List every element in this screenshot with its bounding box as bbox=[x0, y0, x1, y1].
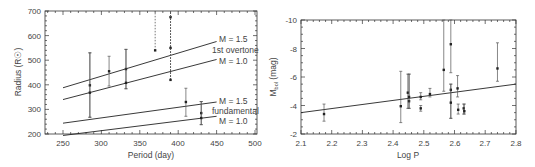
right-ytick-minus2: -2 bbox=[290, 130, 298, 139]
left-ytick-400: 400 bbox=[28, 81, 42, 90]
left-xtick-350: 350 bbox=[133, 139, 147, 148]
left-xtick-450: 450 bbox=[210, 139, 224, 148]
right-ytick-minus8: -8 bbox=[290, 45, 298, 54]
right-xtick-2.2: 2.2 bbox=[326, 139, 338, 148]
right-ylabel-sub: bol bbox=[273, 82, 279, 89]
label-m10-overtone: M = 1.0 bbox=[219, 56, 248, 66]
right-ylabel-unit: (mag) bbox=[268, 57, 278, 82]
left-ytick-700: 700 bbox=[28, 7, 42, 16]
right-data-points bbox=[323, 20, 499, 123]
data-point bbox=[407, 91, 409, 93]
right-ylabel-main: M bbox=[268, 89, 278, 96]
right-plot-frame bbox=[301, 20, 516, 134]
data-point bbox=[450, 43, 452, 45]
data-point bbox=[450, 101, 452, 103]
data-point bbox=[429, 93, 431, 95]
data-point bbox=[154, 49, 156, 51]
data-point bbox=[456, 87, 458, 89]
data-point bbox=[496, 67, 498, 69]
right-xtick-2.3: 2.3 bbox=[356, 139, 368, 148]
right-y-axis-label: Mbol (mag) bbox=[268, 57, 279, 96]
data-point bbox=[408, 96, 410, 98]
data-point bbox=[108, 70, 110, 72]
label-m15-fundamental: M = 1.5 bbox=[219, 96, 248, 106]
left-ytick-600: 600 bbox=[28, 32, 42, 41]
data-point bbox=[200, 117, 202, 119]
left-ytick-300: 300 bbox=[28, 105, 42, 114]
left-x-axis-label: Period (day) bbox=[128, 150, 174, 160]
left-xtick-500: 500 bbox=[248, 139, 262, 148]
right-ticks bbox=[301, 20, 516, 134]
right-xtick-2.5: 2.5 bbox=[418, 139, 430, 148]
right-x-axis-label: Log P bbox=[397, 150, 420, 160]
data-point bbox=[400, 105, 402, 107]
figure: 700 600 500 400 300 200 250 300 350 400 … bbox=[0, 0, 535, 167]
label-m15-overtone: M = 1.5 bbox=[219, 34, 248, 44]
label-m10-fundamental: M = 1.0 bbox=[219, 116, 248, 126]
data-point bbox=[169, 79, 171, 81]
right-xtick-2.7: 2.7 bbox=[479, 139, 491, 148]
model-line bbox=[63, 42, 217, 88]
right-xtick-2.4: 2.4 bbox=[387, 139, 399, 148]
left-model-lines bbox=[63, 42, 217, 136]
label-1st-overtone: 1st overtone bbox=[212, 45, 259, 55]
left-xtick-400: 400 bbox=[171, 139, 185, 148]
right-ytick-minus4: -4 bbox=[290, 102, 298, 111]
right-ytick-minus6: -6 bbox=[290, 73, 298, 82]
data-point bbox=[420, 107, 422, 109]
data-point bbox=[125, 82, 127, 84]
data-point bbox=[323, 113, 325, 115]
data-point bbox=[463, 110, 465, 112]
left-panel: 700 600 500 400 300 200 250 300 350 400 … bbox=[13, 7, 262, 160]
right-xtick-2.6: 2.6 bbox=[449, 139, 461, 148]
data-point bbox=[89, 91, 91, 93]
model-line bbox=[63, 102, 217, 123]
left-ytick-500: 500 bbox=[28, 56, 42, 65]
data-point bbox=[443, 69, 445, 71]
right-ytick-minus10: -10 bbox=[285, 16, 297, 25]
data-point bbox=[457, 109, 459, 111]
model-line bbox=[63, 59, 217, 99]
right-xtick-2.8: 2.8 bbox=[510, 139, 522, 148]
left-xtick-250: 250 bbox=[56, 139, 70, 148]
label-fundamental: fundamental bbox=[212, 106, 259, 116]
data-point bbox=[185, 101, 187, 103]
left-xtick-300: 300 bbox=[94, 139, 108, 148]
left-y-axis-label: Radius (R☉) bbox=[13, 48, 23, 97]
data-point bbox=[420, 96, 422, 98]
left-ytick-200: 200 bbox=[28, 130, 42, 139]
right-xtick-2.1: 2.1 bbox=[295, 139, 307, 148]
right-panel: -10 -8 -6 -4 -2 2.1 2.2 2.3 2.4 2.5 2.6 … bbox=[268, 16, 522, 160]
